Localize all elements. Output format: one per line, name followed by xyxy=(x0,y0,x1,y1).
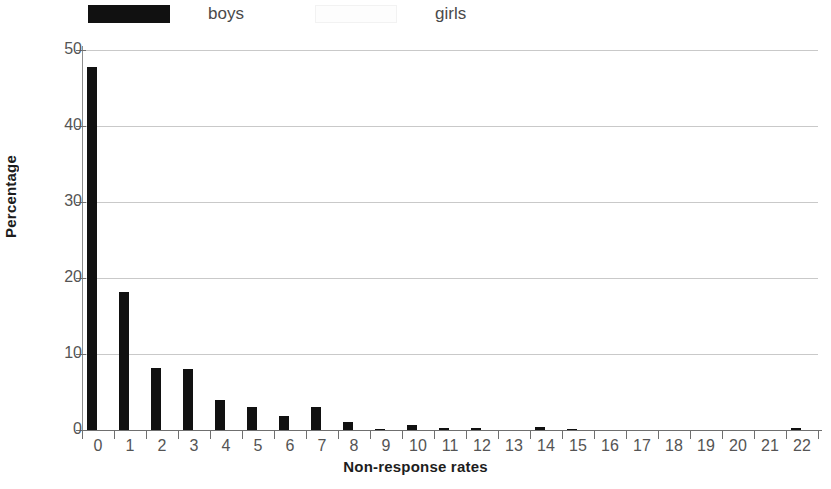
x-axis-ticks: 012345678910111213141516171819202122 xyxy=(0,0,831,489)
bar-chart: boys girls Percentage Non-response rates… xyxy=(0,0,831,489)
x-tick-label: 22 xyxy=(782,437,822,455)
